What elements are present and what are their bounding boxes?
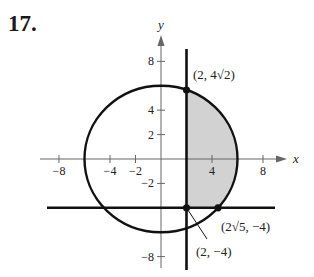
intersection-point (214, 204, 221, 211)
x-axis-label: x (292, 151, 299, 166)
y-axis-label: y (156, 17, 164, 32)
y-tick-label: 8 (148, 54, 154, 68)
label-leader-line (189, 211, 208, 239)
x-tick-label: −8 (53, 164, 66, 178)
point-label-right-intersection: (2√5, −4) (221, 219, 270, 234)
intersection-point (183, 204, 190, 211)
x-tick-label: −2 (129, 164, 142, 178)
x-tick-label: −4 (104, 164, 117, 178)
y-tick-label: −8 (141, 250, 154, 264)
y-tick-label: 2 (148, 128, 154, 142)
point-label-corner: (2, −4) (196, 244, 232, 259)
point-label-top-intersection: (2, 4√2) (193, 67, 235, 82)
intersection-point (183, 86, 190, 93)
y-tick-label: 4 (148, 103, 154, 117)
y-axis-arrow-icon (158, 35, 165, 46)
y-tick-label: −2 (141, 176, 154, 190)
x-tick-label: 8 (260, 164, 266, 178)
x-axis-arrow-icon (276, 156, 287, 163)
x-tick-label: 4 (209, 164, 215, 178)
graph: −8−4−248842−2−8 x y (2, 4√2) (2√5, −4) (… (0, 0, 314, 277)
